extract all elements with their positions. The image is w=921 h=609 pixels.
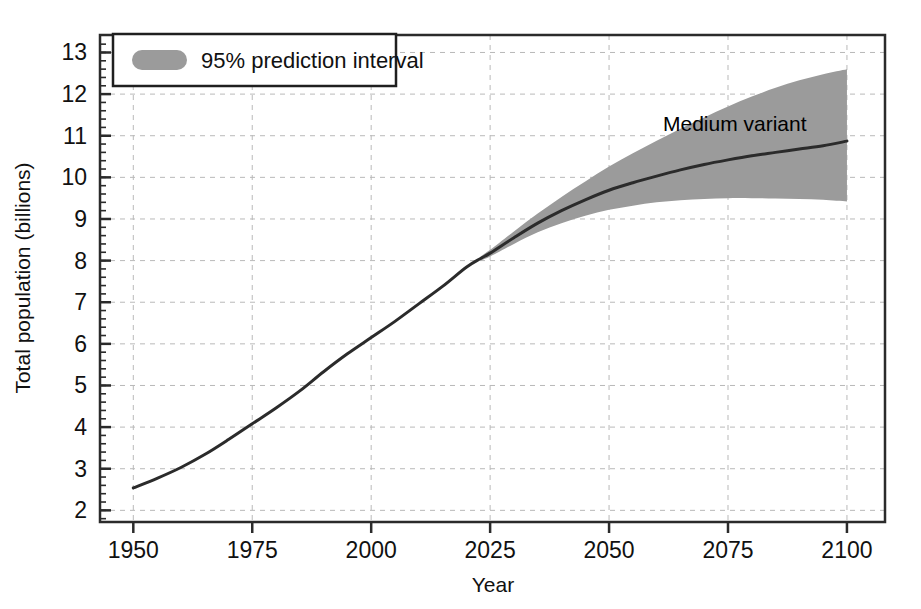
legend-label-prediction-interval: 95% prediction interval (201, 48, 424, 73)
legend-swatch-prediction-interval (132, 50, 187, 70)
y-tick-label: 8 (74, 248, 87, 274)
annotation-medium-variant: Medium variant (663, 112, 807, 135)
y-tick-label: 10 (61, 164, 87, 190)
x-tick-label: 2050 (583, 537, 634, 563)
population-projection-chart: 1950197520002025205020752100 23456789101… (0, 0, 921, 609)
chart-legend: 95% prediction interval (113, 34, 424, 86)
y-tick-label: 11 (63, 123, 87, 149)
x-tick-label: 2100 (821, 537, 872, 563)
x-tick-label: 2025 (465, 537, 516, 563)
y-tick-label: 6 (74, 331, 87, 357)
y-tick-label: 3 (74, 456, 87, 482)
x-tick-label: 1950 (108, 537, 159, 563)
y-tick-label: 7 (74, 289, 87, 315)
y-tick-label: 5 (74, 372, 87, 398)
y-tick-label: 4 (74, 414, 87, 440)
y-tick-label: 12 (61, 81, 87, 107)
y-tick-label: 13 (61, 39, 87, 65)
y-tick-label: 9 (74, 206, 87, 232)
x-tick-label: 1975 (227, 537, 278, 563)
chart-container: 1950197520002025205020752100 23456789101… (0, 0, 921, 609)
x-tick-label: 2000 (346, 537, 397, 563)
y-axis-title: Total population (billions) (11, 162, 34, 393)
x-axis-title: Year (472, 573, 514, 596)
y-tick-label: 2 (74, 497, 87, 523)
x-tick-label: 2075 (702, 537, 753, 563)
